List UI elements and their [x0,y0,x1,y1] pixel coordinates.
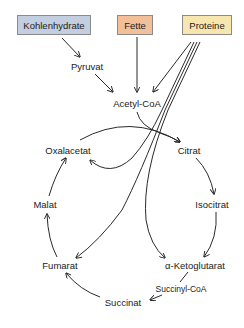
pathway-arrows [0,0,244,328]
node-fumarat: Fumarat [42,260,77,271]
node-alpha-ketoglutarat: α-Ketoglutarat [165,260,225,271]
arrow-succinylcoa-succinat [150,295,162,300]
node-oxalacetat: Oxalacetat [45,145,90,156]
arrow-isocitrat-ketoglutarat [204,212,216,257]
node-pyruvat: Pyruvat [71,61,103,72]
node-citrat: Citrat [178,145,201,156]
source-label: Kohlenhydrate [23,20,84,31]
node-acetyl-coa: Acetyl-CoA [113,98,161,109]
arrow-kohlenhydrate-pyruvat [62,38,80,57]
source-box-fette: Fette [117,15,153,35]
source-label: Fette [124,20,146,31]
arrow-citrat-isocitrat [196,158,214,194]
node-malat: Malat [33,199,56,210]
arrow-fumarat-malat [47,214,57,257]
arrow-succinat-fumarat [66,273,100,297]
source-box-kohlenhydrate: Kohlenhydrate [17,15,91,35]
node-succinyl-coa: Succinyl-CoA [155,284,206,294]
arrow-malat-oxalacetat [49,158,66,196]
arrow-oxalacetat-citrat [80,126,180,142]
source-box-proteine: Proteine [182,15,232,35]
node-succinat: Succinat [105,297,141,308]
node-isocitrat: Isocitrat [195,199,228,210]
source-label: Proteine [189,20,224,31]
arrow-pyruvat-acetylcoa [95,74,113,92]
line-ketoglutarat-succinylcoa [180,272,188,282]
